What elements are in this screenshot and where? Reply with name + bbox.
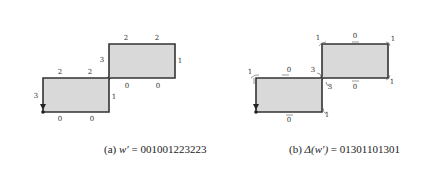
caption-a-variable: w′ (119, 143, 129, 155)
caption-b-value: = 01301101301 (328, 143, 400, 155)
edge-label: 0 (90, 115, 94, 123)
caption-b-prefix: (b) (289, 143, 302, 155)
edge-label: 3 (328, 83, 332, 91)
edge-label: 0 (58, 115, 62, 123)
edge-label: 3 (100, 56, 104, 64)
edge-label: 0 (287, 116, 291, 124)
edge-label: 1 (178, 57, 182, 65)
figure-b-polyomino (251, 42, 390, 115)
edge-label: 3 (311, 66, 315, 74)
caption-b: (b) Δ(w′) = 01301101301 (289, 143, 400, 155)
edge-label: 1 (325, 111, 329, 119)
start-point-icon (41, 110, 45, 114)
edge-label: 0 (287, 66, 291, 74)
edge-label: 0 (353, 32, 357, 40)
edge-label: 2 (155, 34, 159, 42)
edge-label: 0 (125, 82, 129, 90)
edge-label: 1 (316, 34, 320, 42)
edge-label: 2 (58, 68, 62, 76)
edge-label: 3 (34, 92, 38, 100)
caption-a-prefix: (a) (104, 143, 116, 155)
edge-label: 1 (112, 93, 116, 101)
edge-label: 0 (353, 83, 357, 91)
start-point-icon (254, 110, 258, 114)
edge-label: 0 (156, 82, 160, 90)
edge-label: 1 (390, 78, 394, 86)
edge-label: 2 (88, 68, 92, 76)
figure-canvas: 322100322100 10330110101 (0, 0, 430, 184)
caption-a: (a) w′ = 001001223223 (104, 143, 206, 155)
edge-label: 1 (391, 35, 395, 43)
edge-label: 2 (124, 34, 128, 42)
edge-label: 1 (248, 68, 252, 76)
caption-a-value: = 001001223223 (129, 143, 207, 155)
caption-b-variable: Δ(w′) (305, 143, 329, 155)
figure-a-polyomino (40, 44, 175, 114)
